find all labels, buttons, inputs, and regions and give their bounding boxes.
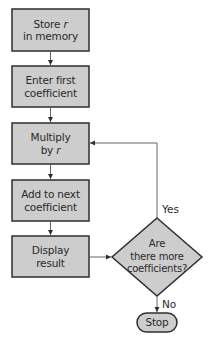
node-enter-first-text: Enter first coefficient bbox=[12, 66, 89, 107]
edge-decision-yes-loop bbox=[90, 143, 157, 218]
node-store-r-line2: in memory bbox=[23, 30, 78, 43]
node-multiply-line1: Multiply bbox=[31, 131, 71, 144]
node-stop-text: Stop bbox=[137, 313, 177, 332]
edge-label-no: No bbox=[162, 298, 176, 310]
node-display-line1: Display bbox=[32, 244, 69, 257]
node-enter-first-line1: Enter first bbox=[26, 74, 76, 87]
node-decision-line1: Are bbox=[149, 238, 165, 251]
edge-label-yes: Yes bbox=[162, 203, 179, 215]
node-multiply-variable: r bbox=[56, 144, 60, 156]
node-decision-text: Are there more coefficients? bbox=[112, 236, 202, 278]
node-decision-line2: there more bbox=[130, 251, 184, 264]
node-store-r-variable: r bbox=[63, 18, 67, 30]
node-enter-first-line2: coefficient bbox=[24, 87, 77, 100]
node-store-r-text: Store r in memory bbox=[12, 9, 89, 51]
node-display-line2: result bbox=[36, 257, 65, 270]
node-store-r-line1: Store r bbox=[33, 18, 67, 31]
flowchart-canvas bbox=[0, 0, 214, 345]
node-multiply-line2-text: by bbox=[41, 144, 57, 156]
node-multiply-line2: by r bbox=[41, 144, 61, 157]
node-store-r-line1-text: Store bbox=[33, 18, 63, 30]
node-multiply-text: Multiply by r bbox=[12, 123, 89, 164]
node-add-next-line2: coefficient bbox=[24, 201, 77, 214]
node-add-next-line1: Add to next bbox=[21, 188, 80, 201]
node-decision-line3: coefficients? bbox=[127, 263, 187, 276]
node-add-next-text: Add to next coefficient bbox=[12, 180, 89, 221]
node-display-text: Display result bbox=[12, 236, 89, 277]
node-stop-label: Stop bbox=[145, 316, 168, 329]
